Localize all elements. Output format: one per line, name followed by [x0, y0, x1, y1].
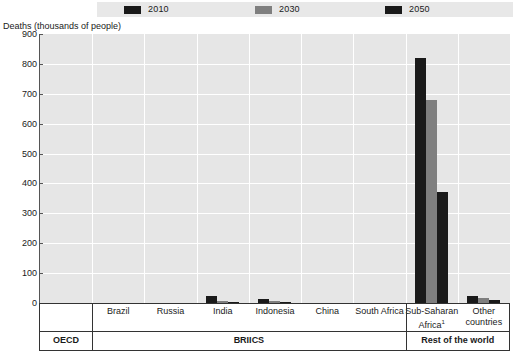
y-tick-mark — [40, 34, 43, 35]
label-row-edge — [509, 304, 510, 351]
legend-label-2010: 2010 — [148, 5, 169, 14]
category-labels: BrazilRussiaIndiaIndonesiaChinaSouth Afr… — [40, 304, 510, 332]
legend-item-2030: 2030 — [255, 2, 300, 17]
bar-group — [144, 34, 196, 303]
y-tick-label: 900 — [3, 30, 37, 39]
group-separator — [406, 331, 407, 351]
y-tick-label: 600 — [3, 120, 37, 129]
y-tick-mark — [40, 154, 43, 155]
legend-swatch-2050 — [385, 6, 402, 14]
group-separator — [92, 331, 93, 351]
bar-group — [458, 34, 510, 303]
category-label: Othercountries — [452, 306, 513, 328]
y-tick-label: 200 — [3, 239, 37, 248]
legend-swatch-2010 — [124, 6, 141, 14]
chart-legend: 2010 2030 2050 — [97, 2, 513, 17]
y-axis-ticks: 9008007006005004003002001000 — [0, 0, 37, 351]
bar-group — [197, 34, 249, 303]
y-tick-mark — [40, 124, 43, 125]
y-tick-label: 800 — [3, 60, 37, 69]
bar-2010 — [206, 296, 217, 303]
bar-2010 — [415, 58, 426, 303]
group-label: BRIICS — [92, 335, 405, 346]
y-tick-mark — [40, 64, 43, 65]
legend-swatch-2030 — [255, 6, 272, 14]
bar-group — [249, 34, 301, 303]
bar-2030 — [426, 100, 437, 303]
y-tick-label: 400 — [3, 179, 37, 188]
group-separator — [406, 304, 407, 332]
y-axis-line — [39, 34, 40, 304]
bar-group — [406, 34, 458, 303]
y-tick-label: 700 — [3, 90, 37, 99]
legend-item-2010: 2010 — [124, 2, 169, 17]
legend-item-2050: 2050 — [385, 2, 430, 17]
y-tick-mark — [40, 273, 43, 274]
label-row-edge — [39, 304, 40, 351]
bar-group — [92, 34, 144, 303]
group-separator — [92, 304, 93, 332]
y-tick-label: 0 — [3, 299, 37, 308]
bar-group — [353, 34, 405, 303]
plot-area — [40, 34, 510, 303]
bar-group — [301, 34, 353, 303]
y-tick-mark — [40, 183, 43, 184]
group-label: Rest of the world — [406, 335, 510, 346]
bar-group — [40, 34, 92, 303]
y-tick-label: 300 — [3, 209, 37, 218]
y-tick-mark — [40, 243, 43, 244]
legend-label-2030: 2030 — [279, 5, 300, 14]
y-tick-label: 100 — [3, 269, 37, 278]
y-tick-label: 500 — [3, 150, 37, 159]
footnote-marker: 1 — [441, 319, 444, 325]
bar-2010 — [467, 296, 478, 303]
y-tick-mark — [40, 213, 43, 214]
group-labels: OECDBRIICSRest of the world — [40, 331, 510, 351]
legend-label-2050: 2050 — [409, 5, 430, 14]
group-label: OECD — [40, 335, 92, 346]
y-tick-mark — [40, 94, 43, 95]
bar-2050 — [437, 192, 448, 303]
